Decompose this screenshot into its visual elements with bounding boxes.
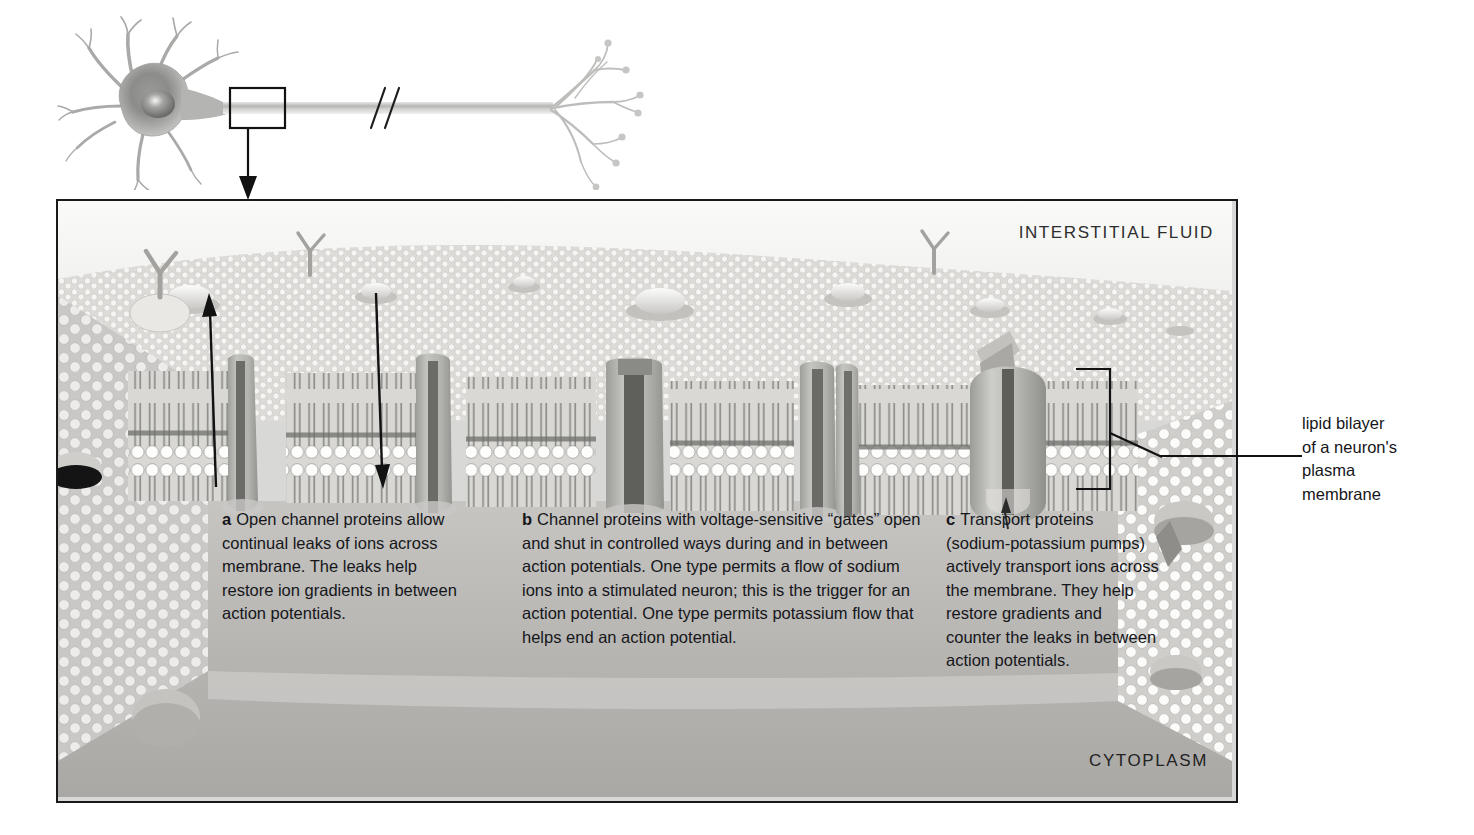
caption-a-text: Open channel proteins allow continual le… xyxy=(222,510,457,622)
neuron-diagram-svg xyxy=(55,10,655,190)
caption-b: bChannel proteins with voltage-sensitive… xyxy=(522,508,922,649)
neuron-nucleus xyxy=(141,90,175,118)
caption-c-text: Transport proteins (sodium-potassium pum… xyxy=(946,510,1159,669)
bilayer-annotation: lipid bilayer of a neuron's plasma membr… xyxy=(1302,412,1462,506)
bilayer-annotation-line-1: lipid bilayer xyxy=(1302,412,1462,436)
interstitial-fluid-label: INTERSTITIAL FLUID xyxy=(1019,223,1214,243)
axon-terminal-boutons xyxy=(593,39,644,190)
voltage-gated-channel-protein-2 xyxy=(793,362,841,524)
voltage-gated-channel-protein-3 xyxy=(836,364,860,519)
caption-c-marker: c xyxy=(946,510,955,528)
axon-hillock xyxy=(181,88,227,120)
caption-b-marker: b xyxy=(522,510,532,528)
bilayer-annotation-line-3: plasma xyxy=(1302,459,1462,483)
axon-shaft xyxy=(223,102,553,114)
bilayer-annotation-line-2: of a neuron's xyxy=(1302,436,1462,460)
axon-terminals xyxy=(551,44,639,186)
bilayer-annotation-line-4: membrane xyxy=(1302,483,1462,507)
voltage-gated-channel-protein-1 xyxy=(602,358,666,523)
neuron-illustration xyxy=(55,10,655,190)
sodium-potassium-pump xyxy=(970,367,1046,530)
caption-a: aOpen channel proteins allow continual l… xyxy=(222,508,470,626)
callout-down-arrow xyxy=(218,128,278,200)
caption-a-marker: a xyxy=(222,510,231,528)
cytoplasm-label: CYTOPLASM xyxy=(1089,751,1208,771)
caption-c: cTransport proteins (sodium-potassium pu… xyxy=(946,508,1161,673)
membrane-illustration-frame: INTERSTITIAL FLUID CYTOPLASM xyxy=(56,199,1238,803)
membrane-scene-svg xyxy=(58,201,1232,797)
open-channel-protein-right xyxy=(409,354,457,518)
figure-root: INTERSTITIAL FLUID CYTOPLASM aOpen chann… xyxy=(0,0,1474,835)
bilayer-label-leader-line xyxy=(1160,455,1302,457)
caption-b-text: Channel proteins with voltage-sensitive … xyxy=(522,510,920,646)
